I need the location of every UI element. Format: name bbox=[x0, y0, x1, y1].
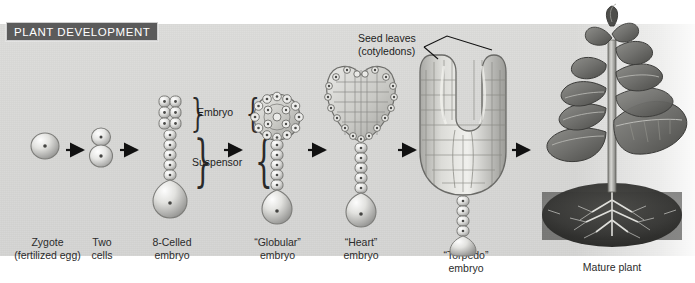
stage-label-torpedo: “Torpedo” embryo bbox=[430, 249, 502, 274]
figure-title-tag: PLANT DEVELOPMENT bbox=[6, 22, 158, 41]
stage-label-eight-celled: 8-Celled embryo bbox=[137, 236, 207, 261]
stage-label-heart: “Heart” embryo bbox=[330, 236, 392, 261]
bracket-label-embryo: Embryo bbox=[197, 106, 233, 118]
figure-title-text: PLANT DEVELOPMENT bbox=[14, 26, 150, 38]
callout-seed-leaves: Seed leaves (cotyledons) bbox=[358, 32, 416, 58]
stage-label-mature-plant: Mature plant bbox=[562, 261, 662, 274]
stage-label-globular: “Globular” embryo bbox=[240, 236, 315, 261]
panel-right-fade bbox=[575, 24, 695, 256]
bracket-label-suspensor: Suspensor bbox=[192, 156, 242, 168]
stage-label-two-cells: Two cells bbox=[76, 236, 128, 261]
plant-development-figure: PLANT DEVELOPMENT bbox=[0, 0, 695, 283]
bracket-suspensor-text: Suspensor bbox=[192, 156, 242, 168]
bracket-embryo-text: Embryo bbox=[197, 106, 233, 118]
brace-right-icon: } bbox=[246, 92, 260, 132]
brace-right-icon-2: } bbox=[255, 133, 273, 189]
